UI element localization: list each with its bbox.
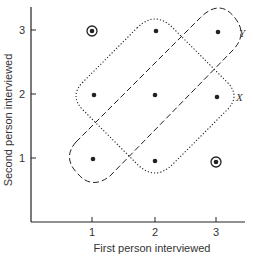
point-2-1 (153, 159, 158, 164)
point-3-2 (215, 95, 220, 100)
point-3-1 (214, 160, 219, 165)
point-1-1 (91, 157, 96, 162)
x-axis-label: First person interviewed (94, 242, 211, 254)
x-tick-1: 1 (89, 226, 95, 238)
x-tick-2: 2 (152, 226, 158, 238)
region-y-label: Y (239, 27, 247, 39)
y-tick-3: 3 (19, 24, 25, 36)
x-tick-3: 3 (213, 226, 219, 238)
point-3-3 (216, 30, 221, 35)
y-ticks: 3 2 1 (19, 24, 36, 164)
point-1-3 (90, 29, 95, 34)
region-x-label: X (235, 91, 244, 103)
point-2-3 (154, 29, 159, 34)
points (87, 26, 221, 167)
point-2-2 (153, 93, 158, 98)
sample-space-diagram: 3 2 1 1 2 3 First person interviewed Sec… (0, 0, 253, 260)
y-tick-2: 2 (19, 88, 25, 100)
x-ticks: 1 2 3 (89, 217, 219, 238)
point-1-2 (92, 93, 97, 98)
y-axis-label: Second person interviewed (2, 54, 14, 187)
y-tick-1: 1 (19, 152, 25, 164)
